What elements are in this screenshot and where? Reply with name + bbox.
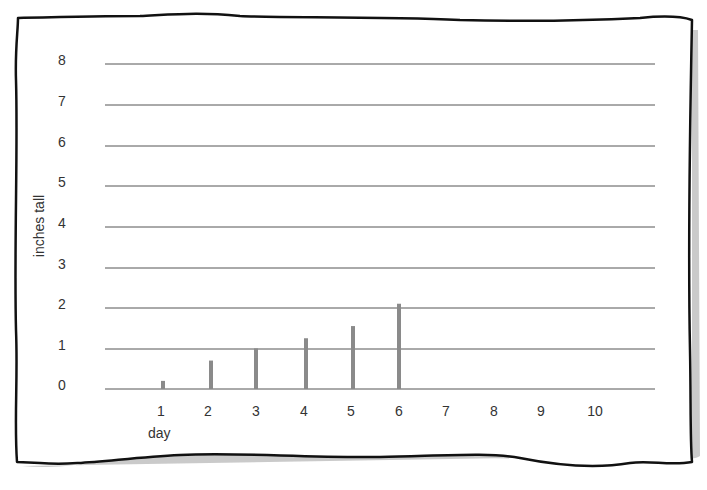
y-tick-2: 2 xyxy=(52,296,72,312)
y-tick-4: 4 xyxy=(52,215,72,231)
x-tick-10: 10 xyxy=(580,403,610,419)
bar-day-5 xyxy=(351,326,355,389)
bar-day-3 xyxy=(254,348,258,389)
x-tick-3: 3 xyxy=(241,403,271,419)
bar-day-6 xyxy=(397,304,401,389)
y-tick-7: 7 xyxy=(52,93,72,109)
x-tick-1: 1 xyxy=(146,403,176,419)
y-tick-1: 1 xyxy=(52,337,72,353)
x-tick-4: 4 xyxy=(289,403,319,419)
x-tick-9: 9 xyxy=(526,403,556,419)
x-tick-7: 7 xyxy=(431,403,461,419)
x-tick-6: 6 xyxy=(384,403,414,419)
y-tick-0: 0 xyxy=(52,377,72,393)
y-tick-8: 8 xyxy=(52,52,72,68)
x-tick-5: 5 xyxy=(336,403,366,419)
x-tick-2: 2 xyxy=(193,403,223,419)
x-tick-8: 8 xyxy=(479,403,509,419)
y-tick-5: 5 xyxy=(52,174,72,190)
y-axis-title: inches tall xyxy=(31,191,47,261)
bar-day-2 xyxy=(209,361,213,389)
y-tick-3: 3 xyxy=(52,256,72,272)
y-tick-6: 6 xyxy=(52,134,72,150)
x-axis-title: day xyxy=(148,425,171,441)
bar-day-1 xyxy=(161,381,165,389)
bar-day-4 xyxy=(304,338,308,389)
